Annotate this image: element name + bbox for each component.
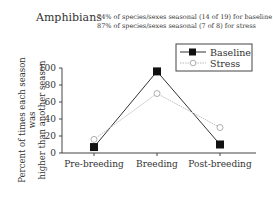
data-point-baseline bbox=[90, 143, 98, 151]
y-tick-label: 60 bbox=[45, 97, 57, 107]
legend-label: Baseline bbox=[210, 47, 251, 58]
legend-label: Stress bbox=[210, 58, 240, 69]
plot-area: 020406080100Pre-breedingBreedingPost-bre… bbox=[0, 0, 273, 217]
x-tick-label: Post-breeding bbox=[188, 159, 252, 169]
y-tick-label: 80 bbox=[45, 80, 57, 90]
data-point-stress bbox=[217, 125, 223, 131]
legend-square-icon bbox=[189, 49, 196, 56]
x-tick-label: Pre-breeding bbox=[64, 159, 124, 169]
y-tick-label: 0 bbox=[50, 148, 56, 158]
data-point-stress bbox=[154, 91, 160, 97]
y-tick-label: 100 bbox=[39, 63, 56, 73]
y-tick-label: 40 bbox=[45, 114, 57, 124]
legend: BaselineStress bbox=[176, 44, 252, 71]
data-point-stress bbox=[91, 136, 97, 142]
data-point-baseline bbox=[216, 141, 224, 149]
legend-circle-icon bbox=[190, 60, 196, 66]
data-point-baseline bbox=[153, 67, 161, 75]
x-tick-label: Breeding bbox=[136, 159, 178, 169]
series-line-baseline bbox=[94, 71, 220, 147]
y-tick-label: 20 bbox=[45, 131, 57, 141]
series-line-stress bbox=[94, 94, 220, 140]
